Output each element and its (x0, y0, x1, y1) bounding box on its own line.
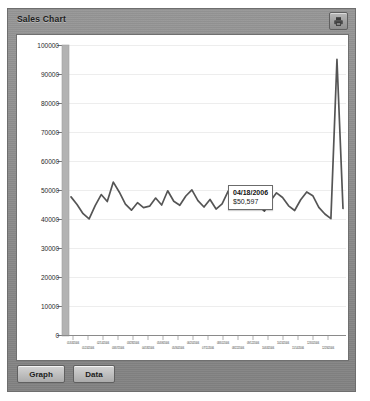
series-line-sales (71, 59, 343, 219)
y-axis-labels: 100000 90000 80000 70000 60000 50000 400… (17, 35, 59, 360)
chart-plot-area[interactable]: 100000 90000 80000 70000 60000 50000 400… (16, 34, 349, 361)
x-axis-ticks (73, 336, 328, 340)
printer-icon-button[interactable] (329, 12, 348, 30)
screenshot-root: Sales Chart (0, 0, 370, 401)
panel-title: Sales Chart (17, 14, 66, 24)
gridlines (61, 46, 346, 336)
y-tick-label: 100000 (37, 42, 59, 49)
y-tick-label: 80000 (41, 100, 59, 107)
y-tick-label: 40000 (41, 216, 59, 223)
y-tick-label: 0 (55, 332, 59, 339)
panel-footer: Graph Data (8, 361, 355, 391)
chart-svg (17, 35, 348, 360)
graph-button[interactable]: Graph (17, 365, 65, 383)
y-tick-label: 20000 (41, 274, 59, 281)
point-tooltip: 04/18/2006 $50,597 (228, 185, 273, 210)
panel-titlebar: Sales Chart (8, 9, 355, 33)
y-tick-label: 70000 (41, 129, 59, 136)
y-tick-label: 50000 (41, 187, 59, 194)
data-button[interactable]: Data (73, 365, 115, 383)
y-axis-band[interactable] (62, 45, 69, 336)
sales-chart-panel: Sales Chart (7, 8, 356, 392)
tooltip-value: $50,597 (233, 197, 268, 206)
tooltip-date: 04/18/2006 (233, 188, 268, 197)
printer-icon (333, 16, 344, 27)
y-tick-label: 10000 (41, 303, 59, 310)
y-tick-label: 30000 (41, 245, 59, 252)
y-tick-label: 60000 (41, 158, 59, 165)
y-tick-label: 90000 (41, 71, 59, 78)
